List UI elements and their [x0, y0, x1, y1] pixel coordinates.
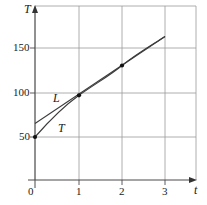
xtick-label-0: 0	[28, 186, 34, 197]
ytick-label-150: 150	[13, 42, 30, 53]
x-axis-label: t	[194, 184, 197, 196]
temperature-graph-figure: 150 100 50 0 1 2 3 T t L T	[0, 0, 207, 205]
xtick-label-1: 1	[76, 186, 82, 197]
xtick-label-3: 3	[162, 186, 168, 197]
y-axis-label: T	[24, 3, 31, 15]
data-point-t2	[120, 63, 124, 67]
temperature-curve-label-T: T	[58, 122, 65, 134]
ytick-label-100: 100	[13, 87, 30, 98]
data-point-t0	[33, 135, 37, 139]
plot-canvas	[0, 0, 207, 205]
ytick-label-50: 50	[19, 131, 30, 142]
xtick-label-2: 2	[119, 186, 125, 197]
y-axis-ticks	[30, 48, 35, 137]
data-point-t1	[77, 93, 81, 97]
tangent-line-label-L: L	[53, 92, 60, 104]
temperature-curve-T	[35, 37, 165, 138]
grid-lines-horizontal	[35, 6, 196, 137]
